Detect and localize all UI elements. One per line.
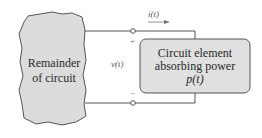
element-label: Circuit element absorbing power p(t) (140, 47, 250, 86)
power-label: p(t) (140, 73, 250, 86)
top-terminal (131, 29, 136, 34)
voltage-label: v(t) (111, 59, 124, 69)
plus-sign: + (130, 36, 135, 46)
bottom-terminal (131, 101, 136, 106)
circuit-diagram: Remainder of circuit Circuit element abs… (0, 0, 262, 138)
current-label: i(t) (148, 9, 159, 19)
remainder-label: Remainder of circuit (20, 56, 88, 86)
minus-sign: − (130, 88, 135, 98)
